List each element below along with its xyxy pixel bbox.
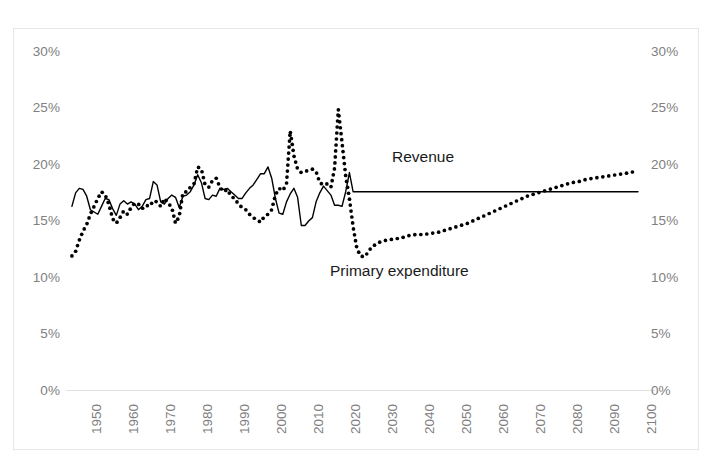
series-revenue-line [72, 167, 638, 226]
y-axis-left-tick-2: 20% [14, 157, 60, 172]
x-axis-tick-1960: 1960 [126, 404, 141, 434]
y-axis-right-tick-4: 10% [651, 270, 697, 285]
y-axis-right-tick-1: 25% [651, 100, 697, 115]
x-axis-tick-2080: 2080 [570, 404, 585, 434]
chart-svg [0, 0, 711, 463]
x-axis-tick-2090: 2090 [607, 404, 622, 434]
y-axis-left-tick-3: 15% [14, 213, 60, 228]
y-axis-right-tick-3: 15% [651, 213, 697, 228]
x-axis-tick-1970: 1970 [163, 404, 178, 434]
x-axis-tick-2060: 2060 [496, 404, 511, 434]
y-axis-left-tick-6: 0% [14, 383, 60, 398]
y-axis-right-tick-5: 5% [651, 326, 697, 341]
annotation-revenue: Revenue [392, 148, 454, 166]
y-axis-left-tick-0: 30% [14, 44, 60, 59]
x-axis-tick-1980: 1980 [200, 404, 215, 434]
x-axis-tick-2070: 2070 [533, 404, 548, 434]
x-axis-tick-1990: 1990 [237, 404, 252, 434]
y-axis-left-tick-5: 5% [14, 326, 60, 341]
y-axis-left-tick-1: 25% [14, 100, 60, 115]
x-axis-tick-2100: 2100 [644, 404, 659, 434]
x-axis-tick-2050: 2050 [459, 404, 474, 434]
x-axis-tick-2010: 2010 [311, 404, 326, 434]
y-axis-right-tick-6: 0% [651, 383, 697, 398]
y-axis-right-tick-0: 30% [651, 44, 697, 59]
x-axis-tick-2030: 2030 [385, 404, 400, 434]
y-axis-right-tick-2: 20% [651, 157, 697, 172]
x-axis-tick-2020: 2020 [348, 404, 363, 434]
chart-container: 30% 25% 20% 15% 10% 5% 0% 30% 25% 20% 15… [0, 0, 711, 463]
x-axis-tick-1950: 1950 [89, 404, 104, 434]
annotation-primary-expenditure: Primary expenditure [330, 262, 469, 280]
x-axis-tick-2040: 2040 [422, 404, 437, 434]
y-axis-left-tick-4: 10% [14, 270, 60, 285]
series-group [70, 108, 638, 258]
x-axis-tick-2000: 2000 [274, 404, 289, 434]
